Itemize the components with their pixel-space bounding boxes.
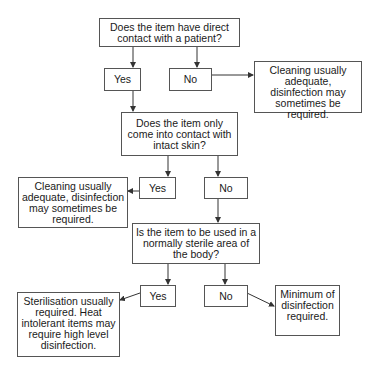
q3-yes-label: Yes bbox=[149, 291, 166, 302]
q3-no-result-text: Minimum of disinfection required. bbox=[278, 289, 337, 322]
q1-no-box: No bbox=[169, 68, 212, 91]
question-direct-contact: Does the item have direct contact with a… bbox=[99, 18, 240, 47]
q1-no-result-box: Cleaning usually adequate, disinfection … bbox=[254, 61, 362, 113]
q1-yes-label: Yes bbox=[114, 74, 131, 85]
question-sterile-area: Is the item to be used in a normally ste… bbox=[132, 223, 260, 264]
q2-yes-box: Yes bbox=[139, 177, 176, 199]
q1-no-label: No bbox=[184, 74, 197, 85]
question-intact-skin: Does the item only come into contact wit… bbox=[121, 112, 238, 156]
q1-no-result-text: Cleaning usually adequate, disinfection … bbox=[257, 65, 359, 120]
question-direct-contact-text: Does the item have direct contact with a… bbox=[102, 22, 237, 44]
q3-no-result-box: Minimum of disinfection required. bbox=[275, 285, 340, 336]
question-sterile-area-text: Is the item to be used in a normally ste… bbox=[135, 227, 257, 260]
q3-yes-result-box: Sterilisation usually required. Heat int… bbox=[17, 292, 120, 357]
q2-no-label: No bbox=[219, 183, 232, 194]
q2-yes-label: Yes bbox=[149, 183, 166, 194]
q3-no-box: No bbox=[204, 285, 248, 307]
q1-yes-box: Yes bbox=[104, 68, 141, 91]
question-intact-skin-text: Does the item only come into contact wit… bbox=[124, 118, 235, 151]
q3-no-label: No bbox=[219, 291, 232, 302]
q2-yes-result-box: Cleaning usually adequate, disinfection … bbox=[18, 177, 128, 228]
q3-yes-box: Yes bbox=[140, 285, 176, 307]
q3-yes-result-text: Sterilisation usually required. Heat int… bbox=[20, 296, 117, 351]
q2-yes-result-text: Cleaning usually adequate, disinfection … bbox=[21, 181, 125, 225]
q2-no-box: No bbox=[204, 177, 248, 199]
